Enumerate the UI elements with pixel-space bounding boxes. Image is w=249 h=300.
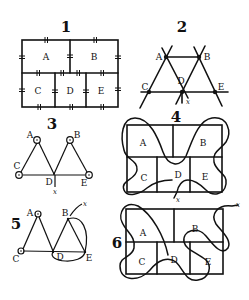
edge-d-b	[176, 46, 205, 104]
vertex-b	[67, 218, 69, 220]
figure-5-number: 5	[11, 215, 21, 233]
region-label-b: B	[192, 224, 199, 234]
region-label-e: E	[202, 172, 209, 182]
figure-3: 3 A B C D E x	[14, 115, 93, 196]
vertex-b	[197, 55, 201, 59]
exit-label-x: x	[53, 188, 57, 196]
region-label-b: B	[200, 138, 207, 148]
exit-label-x: x	[236, 201, 240, 209]
figure-5: 5 A B C D E x	[11, 200, 93, 264]
exit-label-x: x	[83, 200, 87, 208]
vertex-label-c: C	[13, 254, 20, 264]
diagram-canvas: 1	[0, 0, 249, 300]
region-label-d: D	[170, 255, 177, 265]
edge-a-c	[21, 143, 37, 172]
vertex-label-b: B	[204, 52, 211, 62]
vertex-label-a: A	[26, 130, 34, 140]
edge-d-b	[53, 219, 68, 251]
vertex-label-c: C	[142, 82, 149, 92]
figure-4-path	[122, 118, 228, 198]
vertex-e	[213, 90, 217, 94]
vertex-label-d: D	[177, 76, 184, 86]
figure-6-number: 6	[112, 234, 122, 252]
figure-4: 4 A B C D E x	[122, 108, 228, 204]
figure-3-number: 3	[47, 115, 57, 133]
vertex-label-e: E	[218, 82, 225, 92]
edge-a-c	[23, 217, 37, 249]
exit-label-x: x	[186, 98, 190, 106]
vertex-label-b: B	[74, 130, 81, 140]
edge-a-d	[39, 217, 53, 251]
region-label-c: C	[141, 173, 148, 183]
figure-6: 6 A B C D E x	[112, 201, 240, 280]
figure-2: 2 A B C D E x	[140, 18, 228, 108]
vertex-label-c: C	[14, 161, 21, 171]
region-label-d: D	[174, 170, 181, 180]
region-label-a: A	[139, 138, 147, 148]
edge-a-d	[39, 143, 54, 174]
edge-b-e	[71, 143, 87, 172]
region-label-e: E	[205, 257, 212, 267]
vertex-label-a: A	[26, 208, 34, 218]
vertex-label-d: D	[56, 252, 63, 262]
vertex-label-e: E	[86, 253, 93, 263]
figure-4-number: 4	[171, 108, 181, 126]
vertex-d	[52, 251, 54, 253]
region-label-d: D	[66, 86, 73, 96]
vertex-label-b: B	[62, 208, 69, 218]
vertex-label-a: A	[155, 52, 163, 62]
vertex-label-e: E	[81, 178, 88, 188]
figure-1-number: 1	[61, 18, 71, 36]
region-label-c: C	[139, 257, 146, 267]
vertex-a	[164, 55, 168, 59]
edge-d-b	[54, 143, 68, 174]
vertex-d	[53, 173, 55, 175]
figure-1: 1	[19, 18, 121, 110]
exit-label-x: x	[176, 196, 180, 204]
exit-line	[70, 204, 82, 216]
figure-2-number: 2	[177, 18, 187, 36]
vertex-label-d: D	[45, 177, 52, 187]
region-label-a: A	[42, 52, 50, 62]
vertex-d	[180, 90, 184, 94]
region-label-a: A	[139, 228, 147, 238]
region-label-c: C	[35, 86, 42, 96]
region-label-e: E	[98, 86, 105, 96]
region-label-b: B	[91, 52, 98, 62]
